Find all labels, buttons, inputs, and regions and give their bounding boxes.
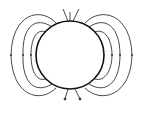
- pole-line-bottom-right: [75, 89, 80, 99]
- sphere: [36, 21, 104, 89]
- arrow-marker-right-middle: [119, 54, 121, 56]
- pole-lines-bottom: [64, 89, 81, 100]
- pole-line-bottom-left: [65, 89, 68, 99]
- pole-dot-bottom-left: [64, 98, 66, 100]
- pole-dot-bottom-right: [79, 98, 81, 100]
- arrow-marker-right-inner: [111, 54, 113, 56]
- arrow-marker-left-outer: [10, 54, 12, 56]
- pole-line-top-right: [73, 9, 79, 21]
- arrow-marker-left-inner: [30, 54, 32, 56]
- pole-line-top-left: [63, 9, 68, 21]
- pole-lines-top: [63, 9, 79, 21]
- arrow-marker-right-outer: [131, 54, 133, 56]
- field-diagram: [0, 0, 141, 115]
- arrow-marker-left-middle: [22, 54, 24, 56]
